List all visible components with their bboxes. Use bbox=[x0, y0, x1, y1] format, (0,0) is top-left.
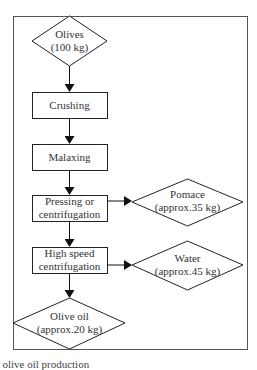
node-oliveoil-label: Olive oil (approx.20 kg) bbox=[22, 310, 117, 336]
outer-frame bbox=[14, 17, 248, 350]
node-olives-label: Olives (100 kg) bbox=[32, 28, 107, 54]
node-highspeed-label: High speed centrifugation bbox=[32, 247, 107, 273]
node-pomace-label: Pomace (approx.35 kg) bbox=[140, 188, 235, 214]
pomace-line1: Pomace bbox=[140, 188, 235, 201]
highspeed-line2: centrifugation bbox=[32, 260, 107, 273]
olives-line1: Olives bbox=[32, 28, 107, 41]
pressing-line1: Pressing or bbox=[32, 195, 107, 208]
pomace-line2: (approx.35 kg) bbox=[140, 201, 235, 214]
oliveoil-line1: Olive oil bbox=[22, 310, 117, 323]
figure-caption: f olive oil production bbox=[0, 358, 89, 370]
node-water-label: Water (approx.45 kg) bbox=[140, 252, 235, 278]
node-pressing-label: Pressing or centrifugation bbox=[32, 195, 107, 221]
water-line2: (approx.45 kg) bbox=[140, 265, 235, 278]
highspeed-line1: High speed bbox=[32, 247, 107, 260]
node-crushing-label: Crushing bbox=[32, 99, 107, 112]
olives-line2: (100 kg) bbox=[32, 41, 107, 54]
water-line1: Water bbox=[140, 252, 235, 265]
pressing-line2: centrifugation bbox=[32, 208, 107, 221]
oliveoil-line2: (approx.20 kg) bbox=[22, 323, 117, 336]
node-malaxing-label: Malaxing bbox=[32, 151, 107, 164]
crushing-line1: Crushing bbox=[32, 99, 107, 112]
malaxing-line1: Malaxing bbox=[32, 151, 107, 164]
